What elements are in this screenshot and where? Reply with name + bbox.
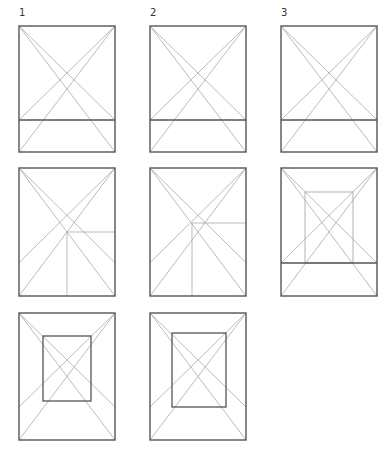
page-proportion-diagrams (0, 0, 390, 452)
panel-7 (19, 313, 115, 440)
panel-4 (19, 168, 115, 296)
panel-8 (150, 313, 246, 440)
panel-2 (150, 26, 246, 152)
panel-1 (19, 26, 115, 152)
panel-3 (281, 26, 377, 152)
panel-5 (150, 168, 246, 296)
panel-6 (281, 168, 377, 296)
